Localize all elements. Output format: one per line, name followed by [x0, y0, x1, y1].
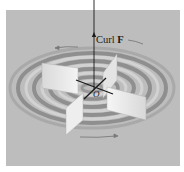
- curl-paddle-wheel-figure: Curl F O: [0, 0, 184, 172]
- origin-label: O: [93, 89, 100, 99]
- curl-f-label: Curl F: [96, 34, 124, 45]
- curl-label-text: Curl: [96, 34, 117, 45]
- vector-f-label: F: [117, 34, 123, 45]
